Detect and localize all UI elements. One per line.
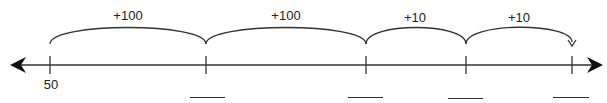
- jump-arcs: [50, 27, 572, 44]
- start-value-label: 50: [44, 77, 58, 92]
- answer-blank-2[interactable]: [348, 97, 383, 98]
- jump-arc-1: [50, 28, 206, 45]
- answer-blank-3[interactable]: [448, 98, 483, 99]
- jump-arc-3: [366, 28, 466, 45]
- jump-arc-4: [466, 27, 572, 44]
- answer-blank-4[interactable]: [553, 97, 589, 98]
- jump-label-1: +100: [113, 8, 142, 23]
- jump-label-4: +10: [508, 10, 530, 25]
- jump-label-2: +100: [271, 8, 300, 23]
- answer-blank-1[interactable]: [190, 97, 225, 98]
- jump-arc-2: [206, 28, 366, 45]
- jump-label-3: +10: [404, 10, 426, 25]
